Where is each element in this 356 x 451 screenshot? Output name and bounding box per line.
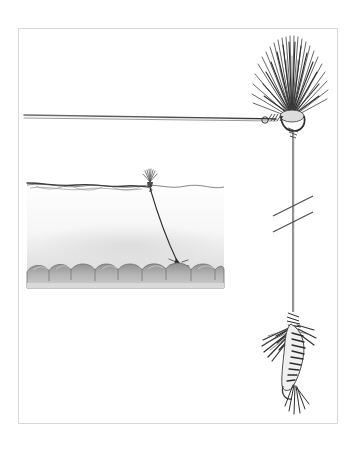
illustration-figure	[0, 0, 356, 451]
fly-line	[24, 115, 276, 121]
illustration-artwork	[0, 0, 356, 451]
water-haze	[30, 223, 226, 267]
underwater-cross-section-panel	[27, 169, 226, 288]
streambed-rocks	[27, 263, 224, 288]
nymph-fly	[262, 313, 316, 414]
